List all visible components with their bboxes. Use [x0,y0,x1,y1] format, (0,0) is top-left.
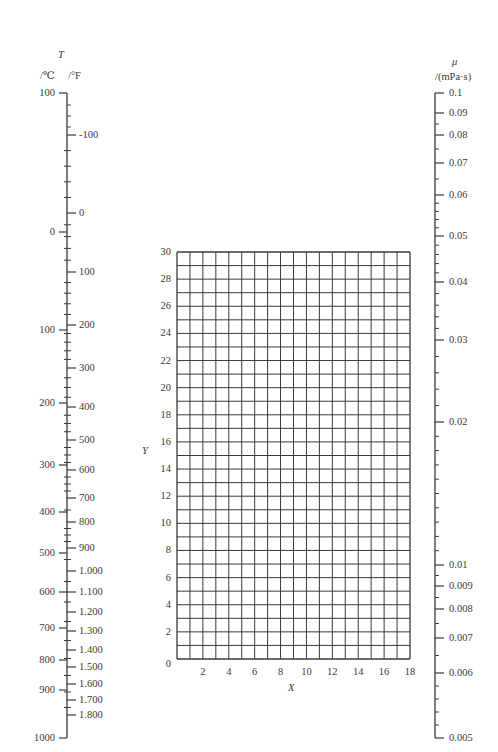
y-tick-label: 14 [161,464,172,475]
viscosity-tick-label: 0.03 [449,335,467,346]
celsius-unit-label: /℃ [40,71,55,82]
x-tick-label: 8 [269,667,293,678]
celsius-tick-label: 0 [50,227,55,238]
x-axis-label: X [288,683,294,694]
celsius-tick-label: 100 [39,88,55,99]
celsius-tick-label: 100 [39,325,55,336]
celsius-tick-label: 500 [39,548,55,559]
x-tick-label: 14 [346,667,370,678]
celsius-tick-label: 900 [39,685,55,696]
viscosity-tick-label: 0.006 [449,668,473,679]
fahrenheit-tick-label: 1.800 [79,710,103,721]
viscosity-tick-label: 0.009 [449,581,473,592]
y-tick-label: 16 [161,437,172,448]
y-tick-label: 30 [161,247,172,258]
fahrenheit-tick-label: 1.200 [79,607,103,618]
y-tick-label: 24 [161,328,172,339]
nomograph-chart [0,0,498,752]
fahrenheit-unit-label: /°F [68,71,81,82]
fahrenheit-tick-label: 1.300 [79,626,103,637]
fahrenheit-tick-label: -100 [79,130,98,141]
celsius-tick-label: 300 [39,460,55,471]
y-tick-label: 12 [161,491,172,502]
viscosity-unit-label: /(mPa·s) [435,72,471,83]
viscosity-tick-label: 0.05 [449,231,467,242]
fahrenheit-tick-label: 1.100 [79,587,103,598]
y-tick-label: 20 [161,383,172,394]
x-tick-label: 4 [217,667,241,678]
fahrenheit-tick-label: 800 [79,517,95,528]
viscosity-symbol: μ [452,57,457,68]
x-tick-label: 10 [294,667,318,678]
viscosity-tick-label: 0.1 [449,88,462,99]
fahrenheit-tick-label: 700 [79,493,95,504]
x-tick-label: 6 [243,667,267,678]
y-tick-label: 18 [161,410,172,421]
y-tick-label: 22 [161,356,172,367]
x-tick-label: 12 [320,667,344,678]
fahrenheit-tick-label: 0 [79,208,84,219]
viscosity-tick-label: 0.08 [449,130,467,141]
fahrenheit-tick-label: 1.600 [79,679,103,690]
fahrenheit-tick-label: 1.500 [79,662,103,673]
viscosity-tick-label: 0.06 [449,190,467,201]
fahrenheit-tick-label: 1.400 [79,645,103,656]
celsius-tick-label: 800 [39,655,55,666]
fahrenheit-tick-label: 400 [79,402,95,413]
x-tick-label: 16 [372,667,396,678]
celsius-tick-label: 600 [39,587,55,598]
viscosity-tick-label: 0.07 [449,158,467,169]
celsius-tick-label: 200 [39,398,55,409]
viscosity-tick-label: 0.007 [449,633,473,644]
viscosity-tick-label: 0.01 [449,560,467,571]
viscosity-tick-label: 0.02 [449,417,467,428]
y-tick-label: 26 [161,301,172,312]
viscosity-tick-label: 0.09 [449,108,467,119]
celsius-tick-label: 700 [39,623,55,634]
y-tick-label: 0 [166,659,171,670]
celsius-tick-label: 400 [39,507,55,518]
fahrenheit-tick-label: 500 [79,435,95,446]
y-tick-label: 28 [161,274,172,285]
x-tick-label: 2 [191,667,215,678]
y-axis-label: Y [142,446,148,457]
fahrenheit-tick-label: 300 [79,363,95,374]
y-tick-label: 6 [166,573,171,584]
viscosity-tick-label: 0.005 [449,733,473,744]
fahrenheit-tick-label: 1.000 [79,566,103,577]
fahrenheit-tick-label: 900 [79,543,95,554]
fahrenheit-tick-label: 600 [79,465,95,476]
fahrenheit-tick-label: 1.700 [79,695,103,706]
fahrenheit-tick-label: 100 [79,267,95,278]
y-tick-label: 4 [166,600,171,611]
temperature-symbol: T [58,50,64,61]
viscosity-tick-label: 0.04 [449,277,467,288]
fahrenheit-tick-label: 200 [79,320,95,331]
celsius-tick-label: 1000 [34,733,55,744]
viscosity-tick-label: 0.008 [449,604,473,615]
y-tick-label: 8 [166,545,171,556]
x-tick-label: 18 [398,667,422,678]
y-tick-label: 2 [166,627,171,638]
y-tick-label: 10 [161,518,172,529]
